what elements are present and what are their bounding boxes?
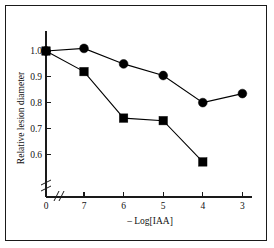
data-point-squares-6[interactable] [119,114,127,122]
data-point-squares-4[interactable] [199,158,207,166]
x-tick-label-4: 4 [200,201,205,211]
x-tick-label-7: 7 [82,201,87,211]
chart-plot-area: 1.00.90.80.70.6076543– Log[IAA]Relative … [0,0,274,248]
data-point-circles-6[interactable] [119,60,128,69]
data-point-circles-3[interactable] [238,89,247,98]
y-tick-label-0.6: 0.6 [30,150,42,160]
y-tick-label-0.8: 0.8 [30,98,42,108]
data-point-squares-5[interactable] [159,116,167,124]
y-tick-label-0.7: 0.7 [30,124,42,134]
y-tick-label-1.0: 1.0 [30,46,42,56]
x-tick-label-5: 5 [161,201,166,211]
x-tick-label-0: 0 [44,201,49,211]
y-tick-label-0.9: 0.9 [30,72,42,82]
x-axis-break-icon [54,191,64,201]
data-point-squares-0[interactable] [42,47,50,55]
x-tick-label-6: 6 [121,201,126,211]
data-point-squares-7[interactable] [80,67,88,75]
figure-container: 1.00.90.80.70.6076543– Log[IAA]Relative … [0,0,274,248]
x-axis-title: – Log[IAA] [126,216,173,226]
x-tick-label-3: 3 [240,201,245,211]
y-axis-title: Relative lesion diameter [16,71,26,164]
data-point-circles-4[interactable] [198,98,207,107]
series-line-circles [46,48,242,102]
data-point-circles-5[interactable] [159,71,168,80]
data-point-circles-7[interactable] [80,44,89,53]
